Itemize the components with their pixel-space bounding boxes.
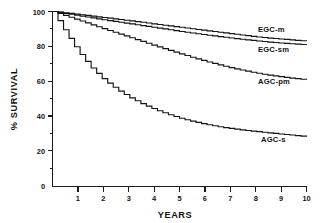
y-axis-ticks bbox=[48, 12, 53, 169]
y-axis-tick-labels: 100 80 60 40 20 0 bbox=[33, 8, 45, 192]
x-tick-label-10: 10 bbox=[302, 194, 310, 203]
x-tick-label-9: 9 bbox=[279, 194, 283, 203]
survival-chart-svg: 100 80 60 40 20 0 1 2 3 4 5 6 bbox=[0, 0, 323, 223]
x-axis-title: YEARS bbox=[158, 210, 193, 220]
curve-label-egc-m: EGC-m bbox=[258, 25, 285, 34]
y-tick-label-60: 60 bbox=[37, 77, 45, 86]
y-tick-label-80: 80 bbox=[37, 42, 45, 51]
y-tick-label-40: 40 bbox=[37, 112, 45, 121]
curve-label-egc-sm: EGC-sm bbox=[258, 45, 289, 54]
y-axis-title: % SURVIVAL bbox=[9, 68, 19, 130]
curve-label-agc-pm: AGC-pm bbox=[258, 77, 290, 86]
x-axis-tick-labels: 1 2 3 4 5 6 7 8 9 10 bbox=[76, 194, 311, 203]
x-tick-label-1: 1 bbox=[76, 194, 80, 203]
x-tick-label-5: 5 bbox=[177, 194, 181, 203]
y-tick-label-100: 100 bbox=[33, 8, 45, 17]
x-tick-label-2: 2 bbox=[101, 194, 105, 203]
x-axis-ticks bbox=[78, 187, 307, 193]
x-tick-label-3: 3 bbox=[127, 194, 131, 203]
x-tick-label-7: 7 bbox=[228, 194, 232, 203]
survival-curve-figure: 100 80 60 40 20 0 1 2 3 4 5 6 bbox=[0, 0, 323, 223]
x-tick-label-4: 4 bbox=[152, 194, 157, 203]
y-tick-label-0: 0 bbox=[41, 182, 45, 191]
y-tick-label-20: 20 bbox=[37, 147, 45, 156]
x-tick-label-8: 8 bbox=[254, 194, 258, 203]
curve-label-agc-s: AGC-s bbox=[261, 135, 286, 144]
x-tick-label-6: 6 bbox=[203, 194, 207, 203]
